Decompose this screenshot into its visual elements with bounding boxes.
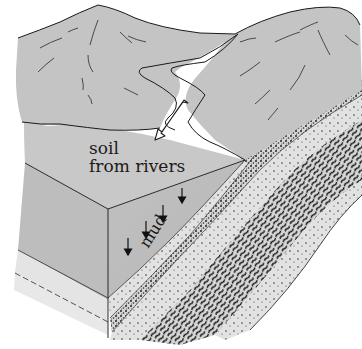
soil-label: soil bbox=[89, 138, 119, 158]
sedimentation-diagram: soil from rivers mud bbox=[0, 0, 362, 349]
from-rivers-label: from rivers bbox=[89, 156, 185, 176]
